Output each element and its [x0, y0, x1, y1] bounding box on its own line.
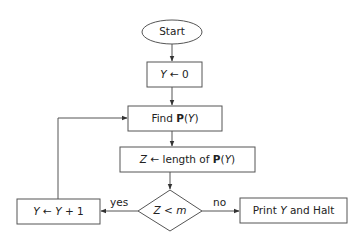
assign-node: Z ← length of P(Y): [120, 153, 255, 165]
assign-var: Z: [140, 153, 147, 165]
decision-op: <: [161, 204, 176, 216]
increment-var: Y: [33, 205, 39, 217]
assign-func: P: [213, 153, 221, 165]
init-var: Y: [160, 68, 166, 80]
assign-close: ): [231, 153, 235, 165]
find-node: Find P(Y): [128, 112, 222, 124]
decision-node: Z < m: [138, 204, 202, 216]
increment-node: Y ← Y + 1: [17, 205, 100, 217]
no-edge-label: no: [213, 196, 226, 208]
init-value: 0: [182, 68, 189, 80]
assign-text: length of: [159, 153, 213, 165]
edge-loop-back: [58, 118, 127, 199]
increment-expr-rest: + 1: [62, 205, 84, 217]
start-node: Start: [142, 25, 202, 37]
find-func: P: [176, 112, 184, 124]
halt-prefix: Print: [253, 204, 281, 216]
yes-edge-label: yes: [110, 196, 128, 208]
find-prefix: Find: [151, 112, 176, 124]
start-label: Start: [159, 25, 185, 37]
halt-suffix: and Halt: [287, 204, 335, 216]
decision-lhs: Z: [154, 204, 161, 216]
find-close: ): [194, 112, 198, 124]
assign-arrow-icon: ←: [43, 205, 52, 217]
halt-node: Print Y and Halt: [240, 204, 347, 216]
init-node: Y ← 0: [147, 68, 202, 80]
assign-arrow-icon: ←: [170, 68, 179, 80]
decision-rhs: m: [176, 204, 186, 216]
assign-arrow-icon: ←: [150, 153, 159, 165]
